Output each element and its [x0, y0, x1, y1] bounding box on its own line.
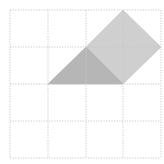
grid-diagram	[0, 0, 164, 164]
